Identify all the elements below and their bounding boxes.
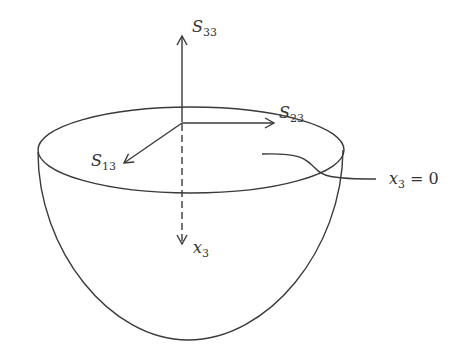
bowl-body	[38, 150, 343, 340]
label-s13: S13	[91, 151, 116, 173]
label-surface-x3-eq-0: x3 = 0	[389, 169, 439, 191]
s13-arrow	[124, 123, 182, 163]
surface-leader-line	[262, 154, 376, 179]
label-s33: S33	[192, 17, 217, 39]
bowl-diagram: S33 S23 S13 x3 x3 = 0	[0, 0, 457, 351]
label-s23: S23	[279, 103, 304, 125]
label-x3: x3	[193, 238, 209, 260]
